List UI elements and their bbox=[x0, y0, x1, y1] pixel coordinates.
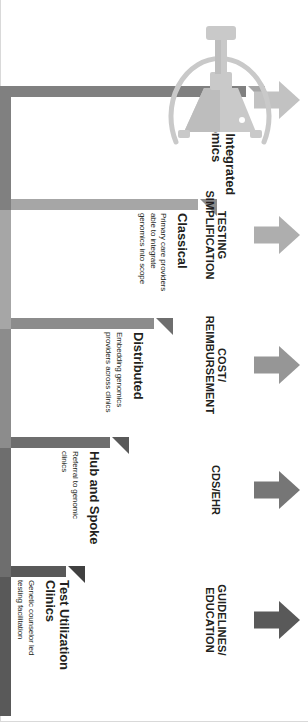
step-tread bbox=[0, 437, 11, 577]
step-desc-line1: Embedding genomics bbox=[115, 332, 124, 407]
arrow-label-testing-simplification: TESTING SIMPLIFICATION bbox=[204, 165, 228, 305]
arrow-label-guidelines-education: GUIDELINES/ EDUCATION bbox=[204, 560, 228, 680]
satellite-dish-icon bbox=[166, 4, 274, 154]
step-label-line1: Classical bbox=[175, 213, 190, 268]
arrow-shape bbox=[254, 600, 300, 640]
step-tread bbox=[0, 86, 11, 210]
step-desc-distributed: Embedding genomics providers across clin… bbox=[102, 332, 124, 456]
step-label-classical: Classical bbox=[174, 213, 189, 331]
arrow-label-line2: SIMPLIFICATION bbox=[204, 190, 216, 279]
step-tread bbox=[0, 199, 11, 329]
step-desc-line2: testing facilitation bbox=[16, 580, 25, 639]
step-label-line2: Clinics bbox=[43, 580, 58, 622]
step-label-line1: Distributed bbox=[131, 332, 146, 400]
arrow-cost-reimbursement[interactable] bbox=[236, 300, 300, 430]
arrow-cds-ehr[interactable] bbox=[236, 430, 300, 550]
step-desc-line1: Genetic counselor led bbox=[27, 580, 36, 655]
arrow-label-line1: CDS/EHR bbox=[210, 465, 222, 515]
step-desc-line3: genomics into scope bbox=[138, 213, 147, 284]
step-label-line1: Test Utilization bbox=[57, 580, 72, 670]
step-tread bbox=[0, 566, 11, 716]
arrow-head-icon bbox=[279, 471, 300, 509]
arrow-head-icon bbox=[279, 81, 300, 119]
arrow-label-line1: GUIDELINES/ bbox=[216, 584, 228, 655]
step-label-test-utilization-clinics: Test Utilization Clinics bbox=[42, 580, 71, 712]
arrow-label-cds-ehr: CDS/EHR bbox=[210, 430, 222, 550]
step-desc-line2: able to integrate bbox=[149, 213, 158, 269]
arrow-shape bbox=[254, 215, 300, 255]
arrow-label-line1: COST/ bbox=[216, 348, 228, 382]
arrow-shaft bbox=[254, 227, 281, 244]
arrow-label-line2: EDUCATION bbox=[204, 587, 216, 652]
step-desc-line1: Primary care providers bbox=[159, 213, 168, 291]
step-tread bbox=[0, 318, 11, 448]
arrow-shape bbox=[254, 470, 300, 510]
arrow-head-icon bbox=[279, 346, 300, 384]
arrow-shaft bbox=[254, 482, 281, 499]
arrow-label-line2: REIMBURSEMENT bbox=[204, 316, 216, 414]
step-label-distributed: Distributed bbox=[130, 332, 145, 450]
arrow-testing-simplification[interactable] bbox=[236, 170, 300, 300]
figure-rotation-wrapper: Test Utilization Clinics Genetic counsel… bbox=[0, 0, 308, 722]
step-desc-line1: Referral to genomic bbox=[71, 451, 80, 519]
step-desc-test-utilization-clinics: Genetic counselor led testing facilitati… bbox=[14, 580, 36, 716]
arrow-head-icon bbox=[279, 216, 300, 254]
step-label-line1: Hub and Spoke bbox=[87, 451, 102, 544]
step-desc-line2: providers across clinics bbox=[104, 332, 113, 412]
arrow-shaft bbox=[254, 357, 281, 374]
arrow-label-cost-reimbursement: COST/ REIMBURSEMENT bbox=[204, 295, 228, 435]
step-label-hub-and-spoke: Hub and Spoke bbox=[86, 451, 101, 577]
arrow-label-line1: TESTING bbox=[216, 211, 228, 259]
arrow-shaft bbox=[254, 612, 281, 629]
arrow-shape bbox=[254, 345, 300, 385]
arrow-head-icon bbox=[279, 601, 300, 639]
step-desc-classical: Primary care providers able to integrate… bbox=[136, 213, 168, 337]
step-desc-line2: clinics bbox=[60, 451, 69, 472]
step-desc-hub-and-spoke: Referral to genomic clinics bbox=[58, 451, 80, 577]
diagram-canvas: Test Utilization Clinics Genetic counsel… bbox=[0, 0, 308, 722]
arrow-guidelines-education[interactable] bbox=[236, 560, 300, 680]
